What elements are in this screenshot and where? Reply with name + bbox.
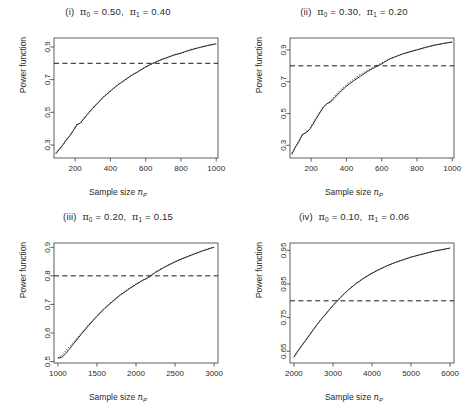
svg-text:200: 200 — [68, 164, 82, 173]
svg-text:4000: 4000 — [363, 369, 381, 378]
svg-text:1000: 1000 — [49, 369, 67, 378]
panel-iii-plot: 100015002000250030000.50.60.70.80.9 — [0, 205, 236, 409]
svg-text:400: 400 — [340, 164, 354, 173]
panel-iii-x-sub: P — [143, 397, 147, 403]
svg-text:0.8: 0.8 — [43, 270, 52, 282]
svg-text:400: 400 — [104, 164, 118, 173]
svg-text:0.65: 0.65 — [279, 343, 288, 359]
svg-text:3000: 3000 — [205, 369, 223, 378]
panel-ii-x-axis-label: Sample size nP — [236, 187, 472, 198]
svg-text:0.9: 0.9 — [43, 241, 52, 253]
svg-text:0.5: 0.5 — [43, 355, 52, 367]
panel-iv-x-sub: P — [379, 397, 383, 403]
panel-i: (i) π0 = 0.50, π1 = 0.40 Power function … — [0, 0, 236, 204]
svg-text:0.9: 0.9 — [279, 44, 288, 56]
svg-text:0.75: 0.75 — [279, 309, 288, 325]
svg-text:3000: 3000 — [324, 369, 342, 378]
svg-text:0.7: 0.7 — [279, 76, 288, 88]
svg-text:800: 800 — [174, 164, 188, 173]
svg-text:1000: 1000 — [207, 164, 225, 173]
panel-iii: (iii) π0 = 0.20, π1 = 0.15 Power functio… — [0, 205, 236, 409]
svg-text:200: 200 — [304, 164, 318, 173]
svg-text:0.5: 0.5 — [43, 106, 52, 118]
panel-iii-x-prefix: Sample size — [89, 392, 138, 402]
svg-text:5000: 5000 — [402, 369, 420, 378]
svg-text:800: 800 — [410, 164, 424, 173]
svg-text:0.7: 0.7 — [43, 298, 52, 310]
svg-text:600: 600 — [139, 164, 153, 173]
svg-text:0.6: 0.6 — [43, 327, 52, 339]
svg-text:0.3: 0.3 — [43, 139, 52, 151]
panel-iii-x-axis-label: Sample size nP — [0, 392, 236, 403]
svg-text:0.9: 0.9 — [43, 41, 52, 53]
svg-text:1500: 1500 — [88, 369, 106, 378]
panel-ii-plot: 20040060080010000.30.50.70.9 — [236, 0, 472, 204]
svg-text:600: 600 — [375, 164, 389, 173]
svg-text:0.7: 0.7 — [43, 74, 52, 86]
svg-text:2000: 2000 — [127, 369, 145, 378]
svg-text:2000: 2000 — [285, 369, 303, 378]
panel-ii: (ii) π0 = 0.30, π1 = 0.20 Power function… — [236, 0, 472, 204]
panel-i-x-sub: P — [143, 192, 147, 198]
panel-ii-x-prefix: Sample size — [325, 187, 374, 197]
figure-grid: (i) π0 = 0.50, π1 = 0.40 Power function … — [0, 0, 472, 409]
panel-ii-x-sub: P — [379, 192, 383, 198]
panel-iv-plot: 200030004000500060000.650.750.850.95 — [236, 205, 472, 409]
svg-text:0.5: 0.5 — [279, 107, 288, 119]
panel-iv-x-axis-label: Sample size nP — [236, 392, 472, 403]
panel-i-plot: 20040060080010000.30.50.70.9 — [0, 0, 236, 204]
svg-text:0.3: 0.3 — [279, 139, 288, 151]
svg-text:0.95: 0.95 — [279, 242, 288, 258]
panel-iv: (iv) π0 = 0.10, π1 = 0.06 Power function… — [236, 205, 472, 409]
panel-i-x-axis-label: Sample size nP — [0, 187, 236, 198]
svg-text:2500: 2500 — [166, 369, 184, 378]
svg-text:0.85: 0.85 — [279, 276, 288, 292]
svg-text:6000: 6000 — [441, 369, 459, 378]
svg-text:1000: 1000 — [443, 164, 461, 173]
panel-iv-x-prefix: Sample size — [325, 392, 374, 402]
panel-i-x-prefix: Sample size — [89, 187, 138, 197]
